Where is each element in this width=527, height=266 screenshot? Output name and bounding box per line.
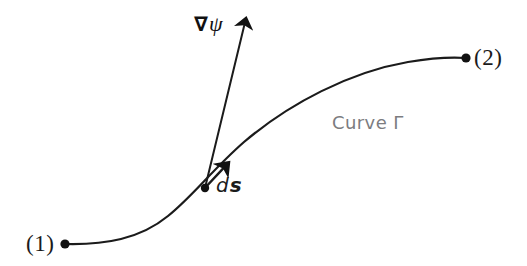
gradient-psi-label: ∇ψ — [194, 13, 223, 35]
tangent-point-marker — [201, 184, 209, 192]
psi-glyph: ψ — [208, 11, 223, 36]
endpoint-marker-1 — [60, 239, 69, 248]
nabla-glyph: ∇ — [194, 12, 208, 36]
ds-label: ds — [216, 175, 242, 195]
differential-d-glyph: d — [216, 173, 229, 197]
endpoint-marker-2 — [461, 53, 470, 62]
figure-canvas: (1) (2) Curve Γ ∇ψ ds — [0, 0, 527, 266]
differential-s-glyph: s — [229, 173, 242, 197]
endpoint-label-1: (1) — [26, 232, 54, 255]
diagram-svg — [0, 0, 527, 266]
curve-gamma-path — [65, 58, 466, 244]
endpoint-label-2: (2) — [474, 46, 502, 69]
curve-gamma-label: Curve Γ — [332, 114, 404, 132]
gradient-vector-arrow — [205, 24, 245, 188]
